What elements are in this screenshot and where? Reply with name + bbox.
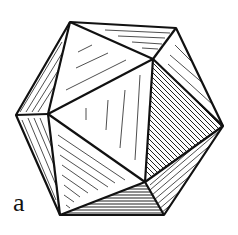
icosahedron-edges <box>16 22 223 215</box>
face-hatch-top-right <box>105 30 170 49</box>
figure-label: a <box>13 190 25 216</box>
face-hatch-lower-left <box>58 135 125 208</box>
face-hatch-top-left <box>20 42 66 112</box>
face-hatch-top <box>66 45 126 90</box>
face-hatch-bottom <box>55 186 170 213</box>
icosahedron-drawing <box>0 0 238 235</box>
